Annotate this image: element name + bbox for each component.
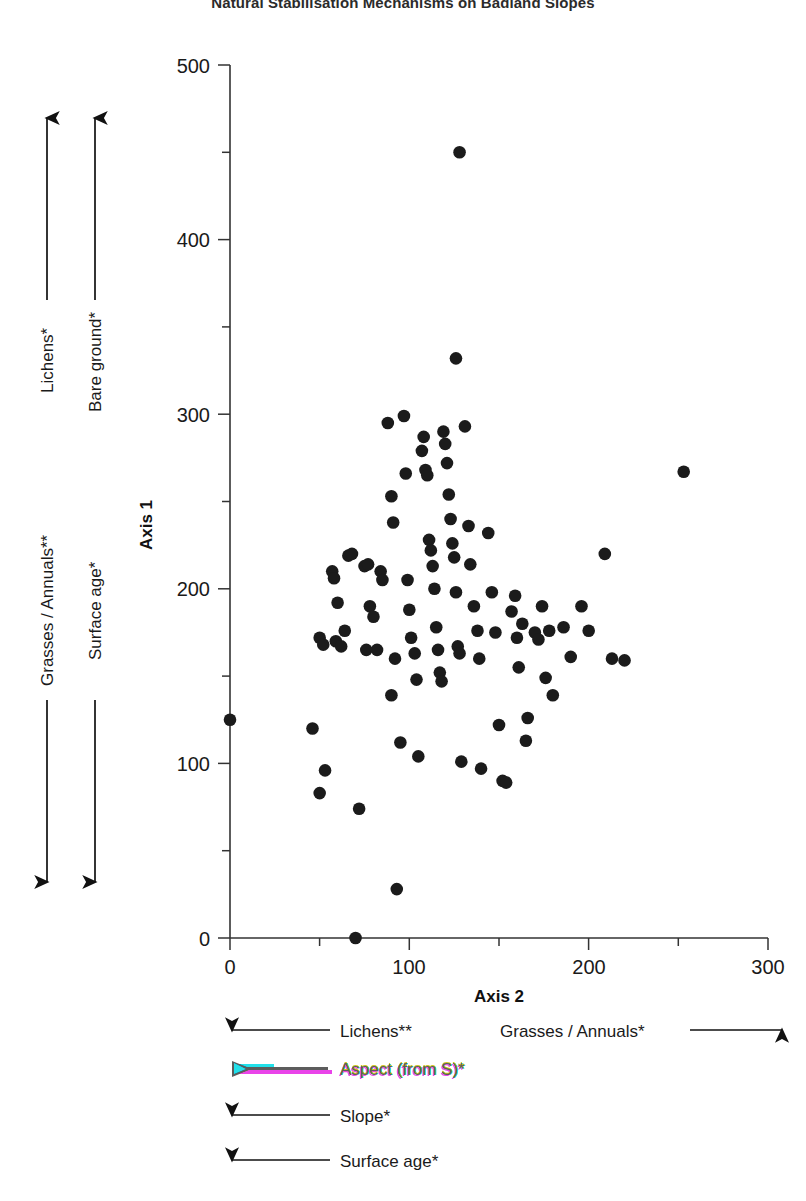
data-point	[346, 548, 359, 561]
data-point	[385, 689, 398, 702]
data-point	[362, 558, 375, 571]
data-point	[459, 420, 472, 433]
legend-row-lichens-grasses: Lichens** Grasses / Annuals*	[232, 1022, 782, 1041]
left-gradient-arrows-up: Lichens* Bare ground*	[38, 118, 105, 412]
data-point	[425, 544, 438, 557]
data-point	[486, 586, 499, 599]
data-point	[618, 654, 631, 667]
data-point	[521, 712, 534, 725]
data-point	[428, 583, 441, 596]
data-point	[389, 652, 402, 665]
left-label-surface-age: Surface age*	[86, 561, 105, 660]
y-axis: 0 100 200 300 400 500 Axis 1	[137, 55, 230, 950]
data-point	[599, 548, 612, 561]
y-tick-label-200: 200	[177, 578, 210, 600]
data-point	[353, 803, 366, 816]
data-point	[464, 558, 477, 571]
data-point	[399, 467, 412, 480]
data-point	[539, 672, 552, 685]
y-tick-label-300: 300	[177, 404, 210, 426]
data-point	[435, 675, 448, 688]
data-point	[317, 638, 330, 651]
data-point	[473, 652, 486, 665]
legend-row-slope: Slope*	[232, 1107, 390, 1126]
data-point	[390, 883, 403, 896]
data-point	[398, 410, 411, 423]
x-tick-label-0: 0	[224, 956, 235, 978]
data-point	[450, 352, 463, 365]
data-point	[401, 574, 414, 587]
y-axis-ticks	[218, 65, 230, 938]
x-tick-label-200: 200	[572, 956, 605, 978]
data-point	[403, 603, 416, 616]
data-point	[335, 640, 348, 653]
data-point	[532, 633, 545, 646]
y-tick-label-500: 500	[177, 55, 210, 77]
data-point	[520, 734, 533, 747]
data-point	[421, 469, 434, 482]
data-point	[446, 537, 459, 550]
data-point	[543, 624, 556, 637]
data-point	[313, 787, 326, 800]
data-point	[448, 551, 461, 564]
data-point	[677, 466, 690, 479]
data-point	[360, 644, 373, 657]
data-point	[442, 488, 455, 501]
legend-row-aspect: Aspect (from S)* Aspect (from S)* Aspect…	[232, 1059, 466, 1080]
data-point	[385, 490, 398, 503]
data-point	[417, 431, 430, 444]
data-point	[367, 610, 380, 623]
data-points-layer	[224, 146, 690, 944]
data-point	[439, 438, 452, 451]
data-point	[338, 624, 351, 637]
data-point	[349, 932, 362, 945]
data-point	[412, 750, 425, 763]
data-point	[328, 572, 341, 585]
x-axis-title: Axis 2	[474, 987, 524, 1006]
y-tick-label-0: 0	[199, 928, 210, 950]
left-label-bare-ground: Bare ground*	[86, 311, 105, 412]
y-axis-title: Axis 1	[137, 500, 156, 550]
data-point	[511, 631, 524, 644]
data-point	[482, 527, 495, 540]
data-point	[405, 631, 418, 644]
data-point	[468, 600, 481, 613]
data-point	[437, 425, 450, 438]
y-tick-label-100: 100	[177, 753, 210, 775]
data-point	[306, 722, 319, 735]
x-tick-label-300: 300	[751, 956, 784, 978]
data-point	[536, 600, 549, 613]
legend-label-slope: Slope*	[340, 1107, 390, 1126]
data-point	[606, 652, 619, 665]
data-point	[512, 661, 525, 674]
x-axis: 0 100 200 300 Axis 2	[224, 938, 784, 1006]
data-point	[416, 445, 429, 458]
data-point	[453, 146, 466, 159]
data-point	[423, 534, 436, 547]
data-point	[426, 560, 439, 573]
data-point	[582, 624, 595, 637]
data-point	[500, 776, 513, 789]
data-point	[493, 719, 506, 732]
legend-label-surface-age: Surface age*	[340, 1152, 439, 1171]
left-gradient-arrows-down: Grasses / Annuals** Surface age*	[38, 534, 105, 882]
data-point	[471, 624, 484, 637]
data-point	[489, 626, 502, 639]
data-point	[382, 417, 395, 430]
data-point	[547, 689, 560, 702]
data-point	[410, 673, 423, 686]
legend-row-surface-age: Surface age*	[232, 1152, 439, 1171]
data-point	[509, 589, 522, 602]
data-point	[505, 605, 518, 618]
data-point	[441, 457, 454, 470]
data-point	[387, 516, 400, 529]
data-point	[462, 520, 475, 533]
left-label-grasses-annuals: Grasses / Annuals**	[38, 534, 57, 686]
data-point	[376, 574, 389, 587]
data-point	[432, 644, 445, 657]
data-point	[331, 596, 344, 609]
data-point	[557, 621, 570, 634]
data-point	[516, 617, 529, 630]
data-point	[575, 600, 588, 613]
data-point	[475, 762, 488, 775]
